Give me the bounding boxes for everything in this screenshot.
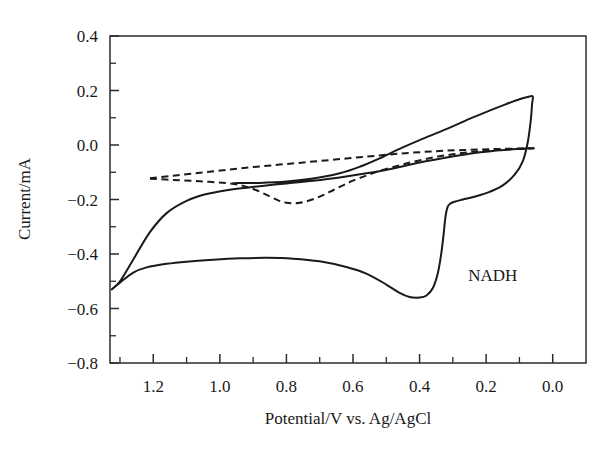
plot-frame bbox=[110, 36, 586, 363]
x-axis-tick-labels: 1.21.00.80.60.40.20.0 bbox=[143, 377, 564, 396]
x-tick-label: 0.0 bbox=[542, 377, 563, 396]
y-axis-label: Current/mA bbox=[15, 157, 34, 240]
x-axis-ticks bbox=[120, 354, 553, 363]
x-tick-label: 0.2 bbox=[476, 377, 497, 396]
figure-container: 0.40.20.0−0.2−0.4−0.6−0.8 1.21.00.80.60.… bbox=[0, 0, 614, 452]
y-axis-tick-labels: 0.40.20.0−0.2−0.4−0.6−0.8 bbox=[67, 27, 98, 373]
y-tick-label: 0.0 bbox=[77, 136, 98, 155]
annotation-label: NADH bbox=[468, 266, 517, 285]
y-tick-label: −0.2 bbox=[67, 191, 98, 210]
x-tick-label: 0.4 bbox=[409, 377, 431, 396]
x-axis-label: Potential/V vs. Ag/AgCl bbox=[265, 409, 432, 428]
y-tick-label: −0.6 bbox=[67, 300, 98, 319]
y-tick-label: −0.8 bbox=[67, 354, 98, 373]
x-tick-label: 0.6 bbox=[342, 377, 363, 396]
x-tick-label: 0.8 bbox=[276, 377, 297, 396]
y-tick-label: 0.2 bbox=[77, 82, 98, 101]
x-tick-label: 1.0 bbox=[209, 377, 230, 396]
y-tick-label: −0.4 bbox=[67, 245, 98, 264]
x-tick-label: 1.2 bbox=[143, 377, 164, 396]
y-tick-label: 0.4 bbox=[77, 27, 99, 46]
chart-annotations: NADH bbox=[468, 266, 517, 285]
y-axis-ticks bbox=[110, 36, 119, 363]
cyclic-voltammogram-chart: 0.40.20.0−0.2−0.4−0.6−0.8 1.21.00.80.60.… bbox=[0, 0, 614, 452]
